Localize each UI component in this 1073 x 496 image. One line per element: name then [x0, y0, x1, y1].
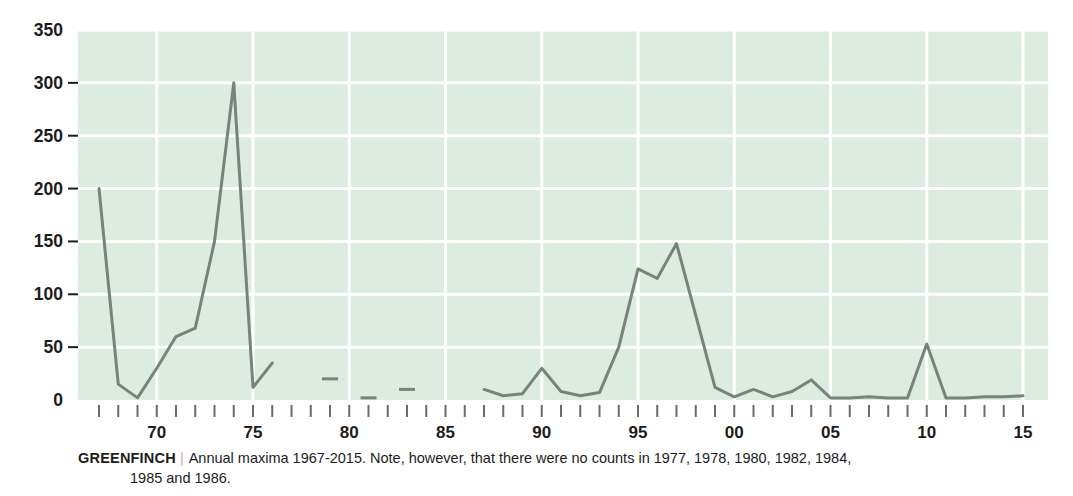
chart-figure: 0501001502002503003507075808590950005101… — [0, 0, 1073, 496]
caption-series-name: GREENFINCH — [78, 450, 176, 466]
y-axis-tick-label: 250 — [34, 126, 63, 146]
caption-text-line2: 1985 and 1986. — [130, 468, 1058, 488]
x-axis: 70758085909500051015 — [99, 405, 1032, 442]
x-axis-tick-label: 05 — [821, 423, 840, 442]
x-axis-tick-label: 00 — [725, 423, 744, 442]
caption-divider: | — [180, 450, 184, 466]
y-axis-tick-label: 350 — [34, 20, 63, 40]
y-axis-tick-label: 150 — [34, 231, 63, 251]
y-axis: 050100150200250300350 — [34, 20, 78, 410]
y-axis-tick-label: 300 — [34, 73, 63, 93]
x-axis-tick-label: 95 — [629, 423, 648, 442]
line-chart: 0501001502002503003507075808590950005101… — [0, 0, 1073, 448]
y-axis-tick-label: 50 — [44, 337, 64, 357]
x-axis-tick-label: 15 — [1014, 423, 1033, 442]
caption-text: Annual maxima 1967-2015. Note, however, … — [189, 450, 852, 466]
y-axis-tick-label: 0 — [53, 390, 63, 410]
x-axis-tick-label: 70 — [147, 423, 166, 442]
x-axis-tick-label: 75 — [244, 423, 263, 442]
x-axis-tick-label: 10 — [917, 423, 936, 442]
plot-background — [78, 30, 1048, 400]
x-axis-tick-label: 80 — [340, 423, 359, 442]
x-axis-tick-label: 90 — [532, 423, 551, 442]
x-axis-tick-label: 85 — [436, 423, 455, 442]
y-axis-tick-label: 100 — [34, 284, 63, 304]
chart-caption: GREENFINCH|Annual maxima 1967-2015. Note… — [78, 448, 1058, 488]
y-axis-tick-label: 200 — [34, 179, 63, 199]
